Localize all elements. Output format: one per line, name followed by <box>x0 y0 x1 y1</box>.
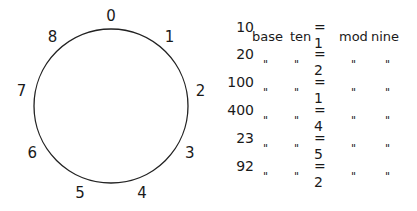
row-number: 10 <box>214 19 254 35</box>
row-result: = 2 <box>314 158 326 190</box>
ditto-mark: " <box>385 58 390 71</box>
ditto-mark: " <box>263 142 268 155</box>
ditto-mark: " <box>294 86 299 99</box>
word-base: base <box>252 29 283 44</box>
ditto-mark: " <box>351 58 356 71</box>
ditto-mark: " <box>294 170 299 183</box>
clock-label-5: 5 <box>75 184 85 202</box>
ditto-mark: " <box>294 142 299 155</box>
word-nine: nine <box>371 29 399 44</box>
row-number: 20 <box>214 46 254 62</box>
clock-label-2: 2 <box>196 82 206 100</box>
row-number: 23 <box>214 130 254 146</box>
row-number: 100 <box>214 74 254 90</box>
ditto-mark: " <box>351 114 356 127</box>
ditto-mark: " <box>351 170 356 183</box>
ditto-mark: " <box>294 58 299 71</box>
ditto-mark: " <box>385 170 390 183</box>
clock-label-7: 7 <box>17 82 27 100</box>
ditto-mark: " <box>385 86 390 99</box>
ditto-mark: " <box>351 86 356 99</box>
row-number: 400 <box>214 102 254 118</box>
ditto-mark: " <box>294 114 299 127</box>
ditto-mark: " <box>263 170 268 183</box>
ditto-mark: " <box>385 114 390 127</box>
word-mod: mod <box>339 29 368 44</box>
ditto-mark: " <box>263 86 268 99</box>
row-number: 92 <box>214 158 254 174</box>
ditto-mark: " <box>351 142 356 155</box>
clock-label-1: 1 <box>165 28 175 46</box>
clock-circle <box>34 29 188 183</box>
clock-label-8: 8 <box>48 28 58 46</box>
word-ten: ten <box>290 29 311 44</box>
clock-label-3: 3 <box>185 144 195 162</box>
ditto-mark: " <box>385 142 390 155</box>
clock-label-0: 0 <box>106 7 116 25</box>
clock-label-4: 4 <box>137 184 147 202</box>
ditto-mark: " <box>263 58 268 71</box>
clock-label-6: 6 <box>27 144 37 162</box>
ditto-mark: " <box>263 114 268 127</box>
